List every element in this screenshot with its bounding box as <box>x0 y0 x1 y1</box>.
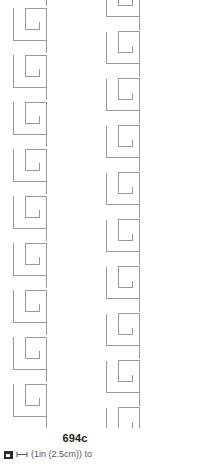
key-motif <box>13 290 46 335</box>
key-motif <box>106 0 139 30</box>
key-motif <box>13 243 46 288</box>
key-motif <box>106 173 139 218</box>
key-motif <box>13 55 46 100</box>
key-motif <box>13 8 46 53</box>
greek-key-pattern-svg <box>0 0 198 428</box>
key-motif <box>106 220 139 265</box>
caption-block: 694c (1in (2.5cm)) to <box>0 428 198 464</box>
key-motif <box>13 149 46 194</box>
key-motif <box>106 126 139 171</box>
swatch-thumbnail-icon <box>4 451 13 459</box>
key-motif <box>106 267 139 312</box>
key-motif <box>106 408 139 429</box>
key-motif <box>106 361 139 406</box>
swatch-code-label: 694c <box>0 432 150 445</box>
size-note-label: (1in (2.5cm)) to <box>31 449 92 460</box>
key-motif <box>13 0 46 6</box>
key-motif <box>13 384 46 428</box>
key-motif <box>106 314 139 359</box>
key-motif <box>13 102 46 147</box>
pattern-swatch <box>0 0 198 428</box>
dimension-arrow-icon <box>16 451 28 458</box>
key-motif <box>13 337 46 382</box>
swatch-page: 694c (1in (2.5cm)) to <box>0 0 198 464</box>
key-motif <box>106 79 139 124</box>
key-motif <box>106 32 139 77</box>
pattern-group <box>13 0 198 428</box>
key-motif <box>13 196 46 241</box>
size-note-row: (1in (2.5cm)) to <box>4 449 92 460</box>
